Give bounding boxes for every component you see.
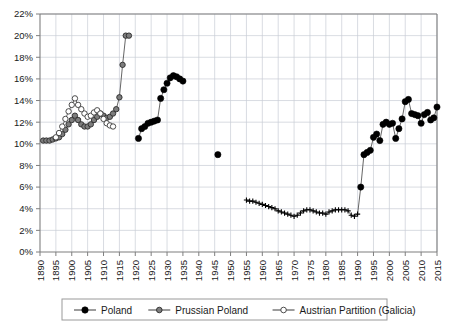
data-point [434, 104, 440, 110]
y-axis-tick-label: 10% [14, 138, 34, 149]
y-axis-tick-label: 2% [19, 225, 33, 236]
data-point [418, 120, 424, 126]
x-axis-tick-label: 1915 [114, 260, 125, 281]
x-axis-tick-label: 1890 [35, 260, 46, 281]
data-point [431, 115, 437, 121]
data-point [367, 147, 373, 153]
data-point [260, 202, 265, 207]
data-point [285, 212, 290, 217]
data-point [126, 33, 131, 38]
x-axis-tick-label: 1960 [257, 260, 268, 281]
data-point [307, 207, 312, 212]
data-point [399, 116, 405, 122]
x-axis-tick-label: 1910 [98, 260, 109, 281]
data-point [320, 210, 325, 215]
data-point [263, 203, 268, 208]
data-point [69, 102, 74, 107]
y-axis-tick-label: 16% [14, 73, 34, 84]
data-point [281, 307, 287, 313]
line-chart: 0%2%4%6%8%10%12%14%16%18%20%22% 18901895… [0, 0, 449, 326]
x-axis-tick-label: 1950 [225, 260, 236, 281]
x-axis-tick-label: 2010 [416, 260, 427, 281]
data-point [269, 205, 274, 210]
x-axis-tick-label: 1990 [352, 260, 363, 281]
x-axis-tick-label: 1970 [289, 260, 300, 281]
y-axis-tick-label: 6% [19, 181, 33, 192]
x-axis-tick-label: 2005 [400, 260, 411, 281]
x-axis-tick-label: 1945 [209, 260, 220, 281]
data-point [374, 131, 380, 137]
data-point [114, 107, 119, 112]
data-point [63, 116, 68, 121]
data-point [215, 152, 221, 158]
data-point [415, 113, 421, 119]
data-point [158, 95, 164, 101]
data-point [72, 96, 77, 101]
data-point [257, 201, 262, 206]
x-axis-tick-label: 1940 [193, 260, 204, 281]
data-point [157, 307, 163, 313]
data-point [389, 120, 395, 126]
x-axis-tick-label: 1995 [368, 260, 379, 281]
series-prussian-poland [40, 33, 131, 143]
data-point [314, 209, 319, 214]
x-axis-tick-label: 2015 [432, 260, 443, 281]
x-axis-tick-label: 1920 [130, 260, 141, 281]
data-point [60, 124, 65, 129]
legend-label: Poland [101, 305, 132, 316]
legend-label: Prussian Poland [175, 305, 248, 316]
data-point [342, 207, 347, 212]
data-point [110, 124, 115, 129]
y-axis-tick-label: 8% [19, 160, 33, 171]
data-point [161, 87, 167, 93]
x-axis-tick-label: 1925 [146, 260, 157, 281]
y-axis-tick-label: 20% [14, 30, 34, 41]
x-axis-tick-label: 1965 [273, 260, 284, 281]
data-point [250, 199, 255, 204]
y-axis-tick-label: 4% [19, 203, 33, 214]
data-point [424, 109, 430, 115]
y-axis-tick-label: 14% [14, 95, 34, 106]
chart-legend: PolandPrussian PolandAustrian Partition … [62, 299, 416, 320]
y-axis-tick-label: 12% [14, 117, 34, 128]
x-axis-tick-labels: 1890189519001905191019151920192519301935… [35, 252, 443, 281]
data-point [117, 95, 122, 100]
data-point [244, 197, 249, 202]
data-point [396, 126, 402, 132]
x-axis-tick-label: 1895 [50, 260, 61, 281]
y-axis-tick-label: 22% [14, 8, 34, 19]
data-point [291, 214, 296, 219]
data-point [253, 200, 258, 205]
y-axis-tick-label: 0% [19, 246, 33, 257]
data-point [377, 137, 383, 143]
x-axis-tick-label: 1980 [320, 260, 331, 281]
data-point [358, 184, 364, 190]
chart-container: 0%2%4%6%8%10%12%14%16%18%20%22% 18901895… [0, 0, 449, 326]
data-point [154, 117, 160, 123]
data-point [82, 307, 88, 313]
x-axis-tick-label: 2000 [384, 260, 395, 281]
data-point [393, 135, 399, 141]
x-axis-tick-label: 1985 [336, 260, 347, 281]
x-axis-tick-label: 1935 [178, 260, 189, 281]
data-point [135, 135, 141, 141]
x-axis-tick-label: 1900 [66, 260, 77, 281]
y-axis-tick-label: 18% [14, 52, 34, 63]
data-point [120, 62, 125, 67]
legend-label: Austrian Partition (Galicia) [300, 305, 416, 316]
y-axis-tick-labels: 0%2%4%6%8%10%12%14%16%18%20%22% [14, 8, 40, 257]
data-point [180, 78, 186, 84]
x-axis-tick-label: 1905 [82, 260, 93, 281]
data-point [405, 96, 411, 102]
x-axis-tick-label: 1975 [305, 260, 316, 281]
data-point [66, 109, 71, 114]
data-point [98, 111, 103, 116]
data-point [56, 130, 61, 135]
x-axis-tick-label: 1955 [241, 260, 252, 281]
data-point [279, 209, 284, 214]
data-series-layer [40, 33, 440, 219]
series-poland [135, 73, 440, 219]
data-point [282, 210, 287, 215]
x-axis-tick-label: 1930 [162, 260, 173, 281]
data-point [288, 213, 293, 218]
